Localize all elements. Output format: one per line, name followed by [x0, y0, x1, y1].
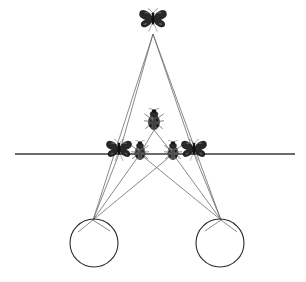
ray-apex-to-left-butterfly — [119, 34, 153, 154]
beetle-icon — [144, 108, 165, 132]
ray-lines-layer — [0, 0, 306, 282]
ray-left-focus-to-circle-left — [78, 220, 93, 232]
butterfly-icon — [105, 139, 133, 162]
beetle-center — [144, 108, 165, 136]
ray-left-focus-to-circle-right — [93, 220, 110, 231]
right-circle — [196, 219, 244, 267]
ray-right-focus-to-circle-left — [205, 220, 221, 231]
ray-right-focus-to-circle-right — [221, 220, 237, 232]
diagram-canvas — [0, 0, 306, 282]
circles-group — [70, 219, 244, 267]
butterfly-top — [138, 8, 168, 37]
beetle-left — [131, 140, 150, 165]
butterfly-left — [105, 139, 133, 166]
butterfly-right — [180, 139, 208, 166]
butterfly-icon — [138, 8, 168, 33]
butterfly-icon — [180, 139, 208, 162]
beetle-icon — [131, 140, 150, 161]
left-circle — [70, 219, 118, 267]
